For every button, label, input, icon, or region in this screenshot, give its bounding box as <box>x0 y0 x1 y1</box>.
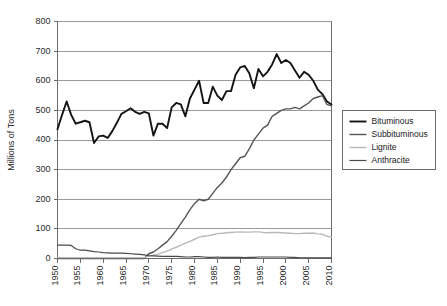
y-tick-label-700: 700 <box>35 46 50 56</box>
y-tick-label-600: 600 <box>35 75 50 85</box>
series-line-subbituminous <box>58 96 332 259</box>
series-line-lignite <box>58 232 332 258</box>
x-tick-label-1975: 1975 <box>164 266 174 286</box>
y-axis-title-group: Millions of Tons <box>6 109 16 171</box>
y-tick-label-200: 200 <box>35 194 50 204</box>
legend: BituminousSubbituminousLigniteAnthracite <box>343 111 436 170</box>
x-tick-label-2000: 2000 <box>278 266 288 286</box>
y-tick-label-500: 500 <box>35 105 50 115</box>
x-tick-label-1960: 1960 <box>95 266 105 286</box>
legend-label-subbituminous: Subbituminous <box>372 129 428 139</box>
x-tick-label-1955: 1955 <box>72 266 82 286</box>
legend-label-bituminous: Bituminous <box>372 116 414 126</box>
y-axis-ticks <box>54 22 58 259</box>
chart-page: 0100200300400500600700800 19501955196019… <box>0 0 447 306</box>
x-tick-label-2010: 2010 <box>324 266 334 286</box>
y-tick-label-100: 100 <box>35 223 50 233</box>
data-series-group <box>58 54 332 258</box>
x-tick-label-1985: 1985 <box>209 266 219 286</box>
y-tick-label-300: 300 <box>35 164 50 174</box>
y-axis-title: Millions of Tons <box>6 109 16 171</box>
x-tick-label-1995: 1995 <box>255 266 265 286</box>
x-tick-label-1980: 1980 <box>187 266 197 286</box>
y-tick-label-400: 400 <box>35 134 50 144</box>
x-tick-label-1965: 1965 <box>118 266 128 286</box>
series-line-bituminous <box>58 54 332 143</box>
x-axis-tick-labels: 1950195519601965197019751980198519901995… <box>50 266 334 286</box>
y-axis-tick-labels: 0100200300400500600700800 <box>35 16 50 263</box>
grid-lines <box>58 22 332 259</box>
series-line-anthracite <box>58 245 332 258</box>
y-tick-label-0: 0 <box>45 253 50 263</box>
y-tick-label-800: 800 <box>35 16 50 26</box>
coal-production-line-chart: 0100200300400500600700800 19501955196019… <box>0 0 447 306</box>
x-tick-label-2005: 2005 <box>301 266 311 286</box>
x-tick-label-1970: 1970 <box>141 266 151 286</box>
x-tick-label-1950: 1950 <box>50 266 60 286</box>
x-tick-label-1990: 1990 <box>232 266 242 286</box>
legend-label-anthracite: Anthracite <box>372 155 411 165</box>
legend-label-lignite: Lignite <box>372 142 397 152</box>
